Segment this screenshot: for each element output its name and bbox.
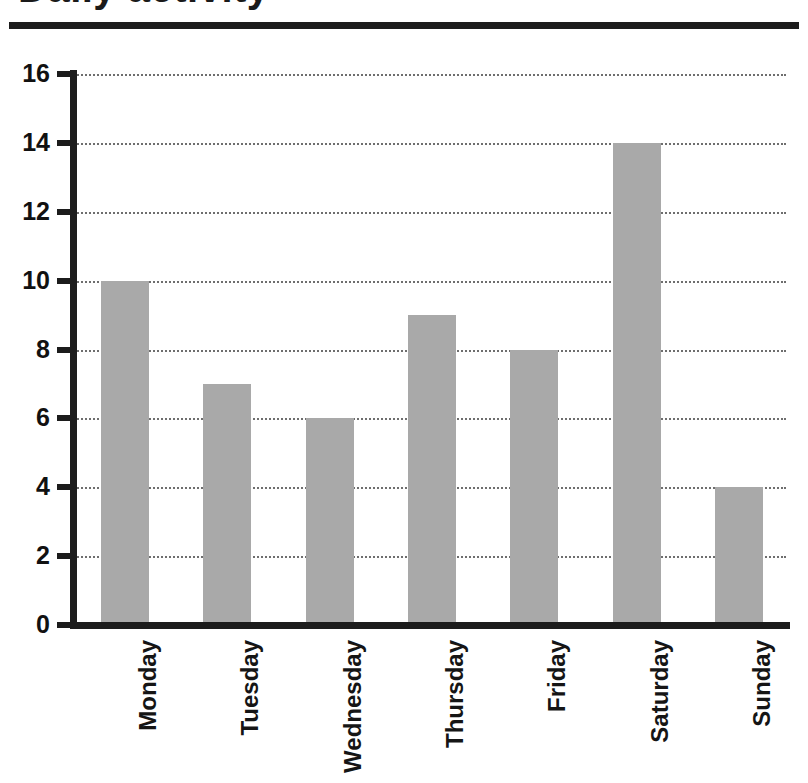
y-axis-tick (57, 553, 73, 559)
y-axis-tick (57, 71, 73, 77)
y-axis-tick (57, 209, 73, 215)
y-axis-label: 16 (0, 61, 50, 86)
y-axis-label: 6 (0, 405, 50, 430)
x-axis-label: Thursday (443, 640, 467, 748)
bar[interactable] (203, 384, 251, 625)
y-axis-tick (57, 415, 73, 421)
x-axis-label: Saturday (648, 640, 672, 743)
bar[interactable] (306, 418, 354, 625)
bar[interactable] (101, 281, 149, 625)
y-axis-label: 12 (0, 199, 50, 224)
y-axis-label: 8 (0, 337, 50, 362)
x-axis-label: Wednesday (341, 640, 365, 773)
gridline (74, 143, 786, 145)
y-axis-tick (57, 140, 73, 146)
x-axis-label: Sunday (750, 640, 774, 727)
y-axis-tick (57, 622, 73, 628)
plot-area (74, 74, 790, 625)
bar[interactable] (613, 143, 661, 625)
gridline (74, 212, 786, 214)
x-axis-label: Monday (136, 640, 160, 731)
y-axis-label: 0 (0, 612, 50, 637)
chart-page: Daily activity 0246810121416 MondayTuesd… (0, 0, 808, 783)
gridline (74, 74, 786, 76)
bar-chart: 0246810121416 MondayTuesdayWednesdayThur… (0, 0, 808, 783)
y-axis-label: 10 (0, 268, 50, 293)
x-axis-label: Friday (545, 640, 569, 712)
y-axis-label: 4 (0, 474, 50, 499)
bar[interactable] (510, 350, 558, 626)
y-axis-tick (57, 484, 73, 490)
y-axis-tick (57, 347, 73, 353)
y-axis-label: 14 (0, 130, 50, 155)
x-axis-line (70, 622, 790, 629)
x-axis-label: Tuesday (238, 640, 262, 736)
bar[interactable] (408, 315, 456, 625)
bar[interactable] (715, 487, 763, 625)
y-axis-tick (57, 278, 73, 284)
gridline (74, 281, 786, 283)
y-axis-label: 2 (0, 543, 50, 568)
